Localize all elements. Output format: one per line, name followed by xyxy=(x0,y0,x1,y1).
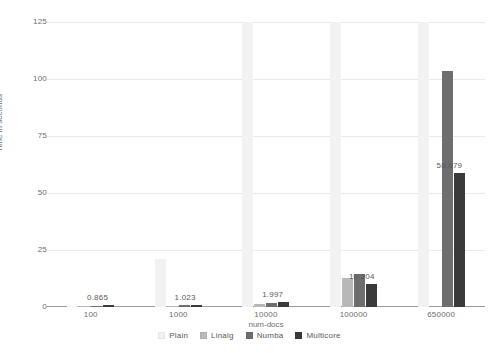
x-axis-title: num-docs xyxy=(47,320,485,329)
y-axis-tick-label: 50 xyxy=(7,188,47,197)
x-axis-tick-label: 650000 xyxy=(397,310,485,319)
bar xyxy=(191,305,202,307)
legend-label: Plain xyxy=(169,331,188,340)
bar xyxy=(278,302,289,307)
bar-groups: 0.8651.0231.99710.20458.679 xyxy=(47,22,485,307)
legend-label: Numba xyxy=(257,331,284,340)
bar xyxy=(266,303,277,307)
bar xyxy=(342,278,353,307)
legend-swatch-icon xyxy=(200,332,207,339)
bar xyxy=(330,22,341,307)
legend-item[interactable]: Linalg xyxy=(200,331,234,340)
y-axis-tick-label: 100 xyxy=(7,74,47,83)
y-axis-tick-label: 75 xyxy=(7,131,47,140)
x-axis-ticks: 100100010000100000650000 xyxy=(47,310,485,319)
bar-data-label: 1.997 xyxy=(262,290,283,299)
bar xyxy=(79,306,90,307)
bar-data-label: 58.679 xyxy=(437,161,463,170)
x-axis-tick-label: 10000 xyxy=(222,310,310,319)
bar-group: 58.679 xyxy=(397,22,485,307)
chart-legend: PlainLinalgNumbaMulticore xyxy=(0,331,499,340)
bar xyxy=(454,173,465,307)
bar xyxy=(254,304,265,307)
bar xyxy=(418,22,429,307)
bar xyxy=(155,259,166,307)
legend-swatch-icon xyxy=(246,332,253,339)
bar xyxy=(103,305,114,307)
legend-item[interactable]: Numba xyxy=(246,331,284,340)
bar-data-label: 1.023 xyxy=(175,293,196,302)
legend-label: Linalg xyxy=(211,331,234,340)
legend-swatch-icon xyxy=(295,332,302,339)
bar-group: 1.023 xyxy=(135,22,223,307)
y-axis-tick-label: 0 xyxy=(7,302,47,311)
bar-group: 0.865 xyxy=(47,22,135,307)
bar xyxy=(442,71,453,307)
bar xyxy=(167,306,178,307)
x-axis-tick-label: 1000 xyxy=(135,310,223,319)
bar xyxy=(67,306,78,307)
legend-swatch-icon xyxy=(158,332,165,339)
bar xyxy=(91,306,102,307)
y-axis-tick-label: 125 xyxy=(7,17,47,26)
legend-label: Multicore xyxy=(306,331,340,340)
legend-item[interactable]: Multicore xyxy=(295,331,340,340)
y-axis-title: Time in seconds xyxy=(0,94,4,152)
bar xyxy=(242,22,253,307)
bar xyxy=(179,305,190,307)
bar xyxy=(366,284,377,307)
bar-group: 10.204 xyxy=(310,22,398,307)
x-axis-tick-label: 100000 xyxy=(310,310,398,319)
y-axis-tick-label: 25 xyxy=(7,245,47,254)
legend-item[interactable]: Plain xyxy=(158,331,188,340)
x-axis-tick-label: 100 xyxy=(47,310,135,319)
bar-group: 1.997 xyxy=(222,22,310,307)
bar-chart: 0255075100125 Time in seconds 0.8651.023… xyxy=(0,0,499,353)
bar-data-label: 0.865 xyxy=(87,293,108,302)
bar-data-label: 10.204 xyxy=(349,272,375,281)
